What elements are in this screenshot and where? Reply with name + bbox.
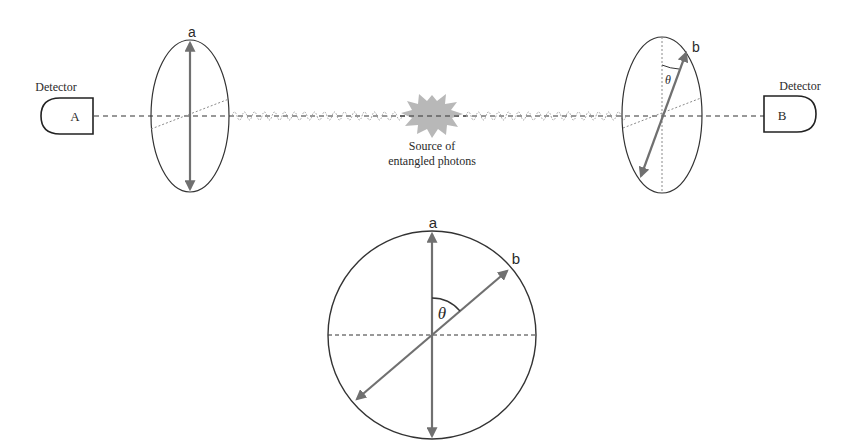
detector-a: Detector A	[35, 80, 93, 134]
source-label-line1: Source of	[409, 139, 455, 153]
inset-label-a: a	[429, 214, 438, 231]
detector-b-caption: Detector	[779, 79, 820, 93]
polarizer-b-label: b	[692, 39, 700, 55]
detector-b: Detector B	[764, 79, 821, 132]
detector-a-body	[41, 98, 93, 134]
detector-a-letter: A	[70, 109, 80, 124]
polarizer-a-label: a	[188, 24, 196, 40]
detector-b-letter: B	[778, 108, 787, 123]
detector-b-body	[764, 96, 816, 132]
source-label-line2: entangled photons	[388, 154, 476, 168]
detector-a-caption: Detector	[35, 80, 76, 94]
inset-label-b: b	[512, 250, 520, 267]
polarizer-b-axis-arrow	[641, 53, 686, 176]
polarizer-b: b θ	[622, 37, 702, 193]
polarizer-b-theta: θ	[665, 73, 671, 87]
inset-theta-label: θ	[438, 304, 446, 323]
entanglement-diagram: Source of entangled photons Detector A D…	[0, 0, 855, 448]
inset-polarization-circle: θ a b	[328, 214, 536, 439]
polarizer-a: a	[151, 24, 229, 192]
